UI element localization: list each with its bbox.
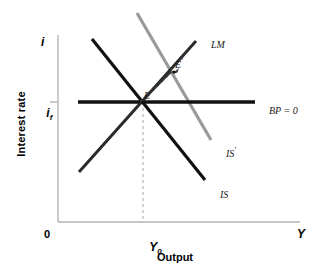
curve-label-lm: LM [201, 28, 225, 60]
curve-label-is: IS [210, 178, 228, 210]
is-lm-bp-diagram: IS IS' LM BP = 0 E E' i Y if Y0 0 Intere… [0, 0, 320, 275]
y-axis-symbol: i [41, 36, 44, 48]
point-label-e: E [134, 79, 150, 111]
curve-label-bp: BP = 0 [259, 96, 298, 126]
x-axis-title: Output [120, 252, 230, 263]
y-axis-title: Interest rate [15, 69, 27, 179]
curve-label-is-prime: IS' [216, 137, 236, 169]
x-axis-symbol: Y [297, 228, 305, 240]
y-tick-label-if: if [33, 95, 52, 134]
origin-label: 0 [44, 229, 50, 240]
point-label-e-prime: E' [165, 48, 183, 80]
